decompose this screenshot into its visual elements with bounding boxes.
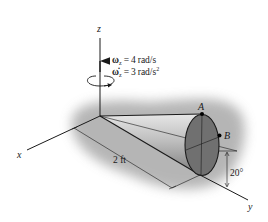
omega-dot-unit: rad/s	[138, 67, 157, 77]
point-a-marker	[200, 112, 204, 116]
diagram-canvas: x z ωz=4rad/s ω̇z=3rad/s2 y A	[0, 0, 268, 222]
length-label: 2 ft	[113, 155, 126, 165]
omega-unit: rad/s	[138, 55, 157, 65]
omega-value: 4	[131, 55, 136, 65]
omega-dot-subscript: z	[119, 72, 122, 78]
omega-dot-unit-exponent: 2	[156, 66, 159, 72]
point-b-label: B	[224, 130, 230, 141]
omega-dot-equals: =	[124, 67, 129, 77]
point-b-marker	[218, 134, 222, 138]
z-axis-label: z	[96, 23, 101, 34]
y-axis-label: y	[247, 201, 253, 212]
omega-equals: =	[124, 55, 129, 65]
x-axis-label: x	[16, 149, 22, 160]
omega-dot-value: 3	[131, 67, 136, 77]
angular-velocity-text: ωz=4rad/s	[112, 55, 157, 66]
angular-acceleration-text: ω̇z=3rad/s2	[112, 66, 159, 78]
omega-symbol: ω	[112, 55, 119, 65]
cone-diagram: x z ωz=4rad/s ω̇z=3rad/s2 y A	[0, 0, 268, 222]
point-a-label: A	[197, 101, 205, 112]
omega-subscript: z	[119, 60, 122, 66]
rotation-arrow-icon	[87, 76, 114, 86]
angle-label: 20°	[230, 168, 244, 178]
